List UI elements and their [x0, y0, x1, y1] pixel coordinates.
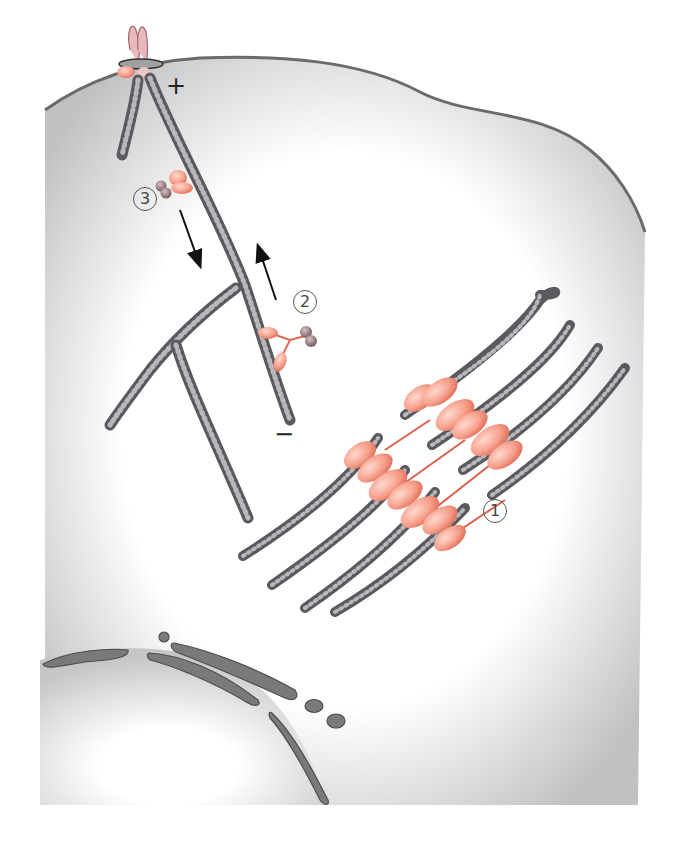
annotation-2: 2 [293, 290, 317, 314]
vesicle [305, 700, 323, 713]
annotation-1: 1 [483, 499, 507, 523]
minus-end-label: − [274, 422, 294, 446]
vesicle [327, 714, 345, 728]
plus-end-label: + [166, 74, 186, 98]
nuclear-pore-vesicle [159, 632, 169, 642]
cell-diagram [0, 0, 686, 843]
annotation-3: 3 [133, 187, 157, 211]
